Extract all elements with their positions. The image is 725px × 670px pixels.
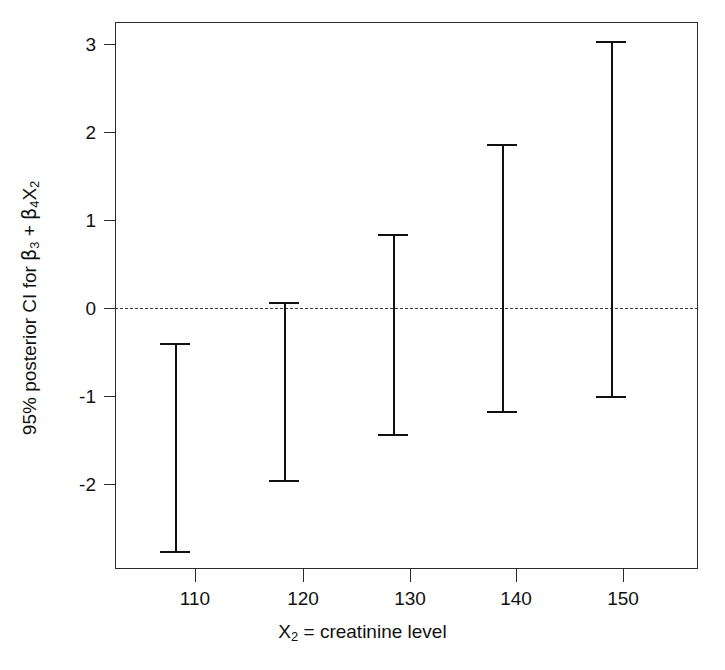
- y-axis-title-sub3: 3: [27, 242, 42, 249]
- errorbar-140: [502, 144, 504, 411]
- y-tick-label-3: 3: [85, 34, 96, 56]
- errorbar-120: [284, 302, 286, 480]
- y-tick-3: [104, 44, 115, 45]
- errorbar-cap-lower-150: [596, 396, 626, 398]
- y-tick-2: [104, 132, 115, 133]
- x-axis-title: X2 = creatinine level: [0, 621, 725, 644]
- x-tick-150: [623, 569, 624, 582]
- x-tick-140: [516, 569, 517, 582]
- y-axis-title-subX: 2: [27, 181, 42, 188]
- y-axis-title-sub4: 4: [27, 201, 42, 208]
- y-axis-title-beta4: β: [18, 208, 40, 220]
- y-axis-title: 95% posterior CI for β3 + β4X2: [18, 0, 42, 638]
- x-axis-title-X: X: [278, 621, 291, 642]
- x-tick-label-140: 140: [486, 588, 546, 610]
- x-tick-label-110: 110: [165, 588, 225, 610]
- errorbar-cap-lower-120: [269, 480, 299, 482]
- x-tick-label-130: 130: [380, 588, 440, 610]
- y-axis-title-prefix: 95% posterior CI for: [19, 261, 40, 435]
- x-tick-130: [410, 569, 411, 582]
- errorbar-130: [393, 234, 395, 433]
- errorbar-cap-upper-130: [378, 234, 408, 236]
- x-tick-120: [303, 569, 304, 582]
- errorbar-cap-upper-110: [160, 343, 190, 345]
- y-tick-neg2: [104, 484, 115, 485]
- y-axis-title-beta3: β: [18, 249, 40, 261]
- errorbar-110: [175, 343, 177, 551]
- x-axis-title-rest: = creatinine level: [298, 621, 446, 642]
- x-tick-110: [195, 569, 196, 582]
- x-tick-label-120: 120: [273, 588, 333, 610]
- errorbar-cap-lower-140: [487, 411, 517, 413]
- y-axis-title-plus: +: [19, 220, 40, 242]
- y-tick-label-neg2: -2: [79, 474, 96, 496]
- y-tick-0: [104, 308, 115, 309]
- y-tick-label-0: 0: [85, 298, 96, 320]
- errorbar-cap-lower-130: [378, 434, 408, 436]
- y-tick-neg1: [104, 396, 115, 397]
- errorbar-150: [611, 41, 613, 397]
- y-tick-label-neg1: -1: [79, 386, 96, 408]
- errorbar-cap-upper-140: [487, 144, 517, 146]
- y-tick-1: [104, 220, 115, 221]
- y-tick-label-1: 1: [85, 210, 96, 232]
- errorbar-cap-lower-110: [160, 551, 190, 553]
- errorbar-cap-upper-120: [269, 302, 299, 304]
- figure-canvas: 3 2 1 0 -1 -2 110 120 130 140 150 X2 = c…: [0, 0, 725, 670]
- y-tick-label-2: 2: [85, 122, 96, 144]
- y-axis-title-wrap: 95% posterior CI for β3 + β4X2: [0, 0, 52, 670]
- x-tick-label-150: 150: [593, 588, 653, 610]
- y-axis-title-X: X: [19, 188, 40, 201]
- errorbar-cap-upper-150: [596, 41, 626, 43]
